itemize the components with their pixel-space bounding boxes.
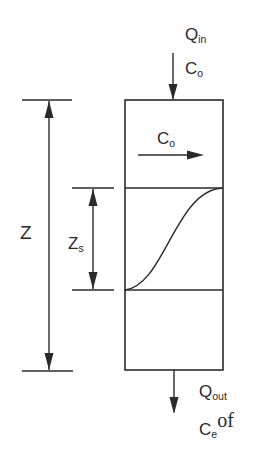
outflow-arrow-head-icon (170, 397, 179, 414)
breakthrough-curve (125, 188, 223, 290)
label-z-s-main: Z (68, 234, 78, 253)
z-arrow-down-icon (45, 353, 54, 370)
label-q-in-sub: in (198, 33, 206, 45)
label-c-o-inside-main: C (157, 129, 169, 148)
label-c-o-inside: Co (157, 130, 175, 148)
flow-arrow-head-icon (187, 151, 204, 160)
label-z: Z (20, 223, 32, 242)
zs-arrow-up-icon (89, 189, 98, 206)
label-c-o-top-main: C (185, 59, 197, 78)
label-c-o-top: Co (185, 60, 203, 78)
label-c-e-main: C (199, 420, 211, 439)
label-c-e: Ceof (199, 418, 234, 439)
label-q-out-main: Q (199, 382, 212, 401)
label-c-o-top-sub: o (197, 67, 203, 79)
label-z-main: Z (20, 222, 32, 243)
label-q-out: Qout (199, 383, 227, 401)
label-q-out-sub: out (212, 390, 227, 402)
label-q-in-main: Q (185, 25, 198, 44)
label-c-o-inside-sub: o (169, 137, 175, 149)
inflow-arrow-head-icon (169, 84, 178, 100)
z-arrow-up-icon (45, 101, 54, 118)
zs-arrow-down-icon (89, 272, 98, 289)
label-z-s-sub: s (78, 242, 83, 254)
label-c-e-suffix: of (217, 409, 234, 431)
label-q-in: Qin (185, 26, 206, 44)
label-z-s: Zs (68, 235, 84, 253)
column-diagram (0, 0, 268, 465)
